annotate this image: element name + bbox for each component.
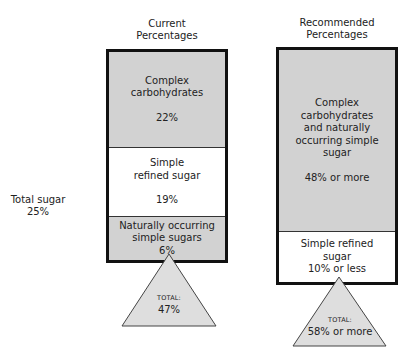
total-caption: TOTAL: — [129, 294, 209, 303]
total-value: 47% — [129, 303, 209, 316]
total-value: 58% or more — [294, 325, 386, 338]
total-caption: TOTAL: — [294, 316, 386, 325]
current-total-label: TOTAL: 47% — [129, 294, 209, 316]
recommended-total-label: TOTAL: 58% or more — [294, 316, 386, 338]
